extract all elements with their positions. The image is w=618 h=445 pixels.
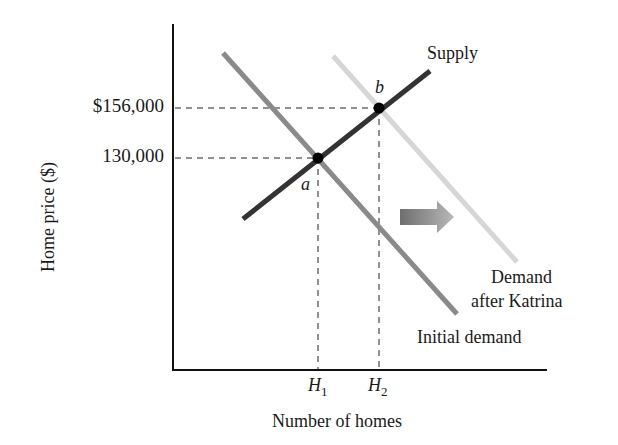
equilibrium-point-a (313, 153, 324, 164)
y-tick-156000: $156,000 (40, 95, 164, 117)
y-axis-title: Home price ($) (38, 162, 59, 272)
equilibrium-point-b (374, 103, 385, 114)
x-axis-title: Number of homes (272, 411, 402, 432)
demand-after-katrina-curve (333, 56, 517, 262)
initial-demand-label: Initial demand (417, 327, 521, 348)
supply-curve (243, 71, 430, 219)
demand-after-label-line1: Demand (491, 267, 552, 288)
initial-demand-curve (223, 53, 457, 314)
point-a-label: a (301, 174, 310, 195)
shift-arrow-icon (400, 201, 454, 233)
guide-lines (175, 108, 379, 369)
point-b-label: b (375, 77, 384, 98)
demand-after-label-line2: after Katrina (471, 291, 562, 312)
x-tick-h1: H1 (308, 375, 328, 396)
x-tick-h2: H2 (368, 375, 388, 396)
x-tick-h1-sub: 1 (321, 384, 328, 399)
x-tick-h1-base: H (308, 375, 321, 395)
supply-label: Supply (427, 43, 478, 64)
x-tick-h2-base: H (368, 375, 381, 395)
x-tick-h2-sub: 2 (381, 384, 388, 399)
